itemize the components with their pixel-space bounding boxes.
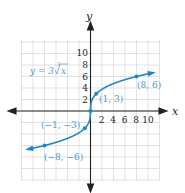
equation-label: y = 3 3 x [29, 61, 68, 76]
y-tick: 10 [77, 48, 89, 58]
equation-prefix: y = 3 [29, 66, 54, 76]
x-tick-labels: 2 4 6 8 10 [99, 115, 154, 125]
y-tick: 8 [82, 60, 88, 70]
point-label-8-6: (8, 6) [137, 80, 161, 90]
x-tick: 8 [133, 115, 139, 125]
y-tick: 6 [82, 72, 88, 82]
point-label-1-3: (1, 3) [99, 94, 123, 104]
curve-point [94, 92, 98, 96]
x-axis-left-arrow-icon [8, 108, 16, 114]
y-axis-up-arrow-icon [88, 22, 94, 30]
x-tick: 6 [122, 115, 128, 125]
point-label-neg8-neg6: (−8, −6) [44, 152, 83, 162]
x-tick: 4 [110, 115, 116, 125]
x-tick: 2 [99, 115, 105, 125]
y-axis-down-arrow-icon [88, 184, 94, 192]
x-axis-right-arrow-icon [159, 108, 167, 114]
curve-point [135, 75, 139, 79]
cube-root-graph: x y 2 4 6 8 10 2 4 6 8 10 (8, 6) (1, 3) … [0, 0, 185, 193]
equation-radicand: x [61, 66, 66, 76]
curve-left-arrow-icon [25, 145, 33, 150]
x-axis-label: x [172, 105, 179, 118]
curve-point [89, 109, 93, 113]
x-tick: 10 [142, 115, 154, 125]
curve-right-arrow-icon [147, 71, 155, 76]
point-label-neg1-neg3: (−1, −3) [41, 120, 80, 130]
y-tick: 4 [82, 83, 88, 93]
y-tick: 2 [82, 95, 88, 105]
y-axis-label: y [85, 10, 93, 23]
curve-point [43, 144, 47, 148]
curve-point [83, 126, 87, 130]
